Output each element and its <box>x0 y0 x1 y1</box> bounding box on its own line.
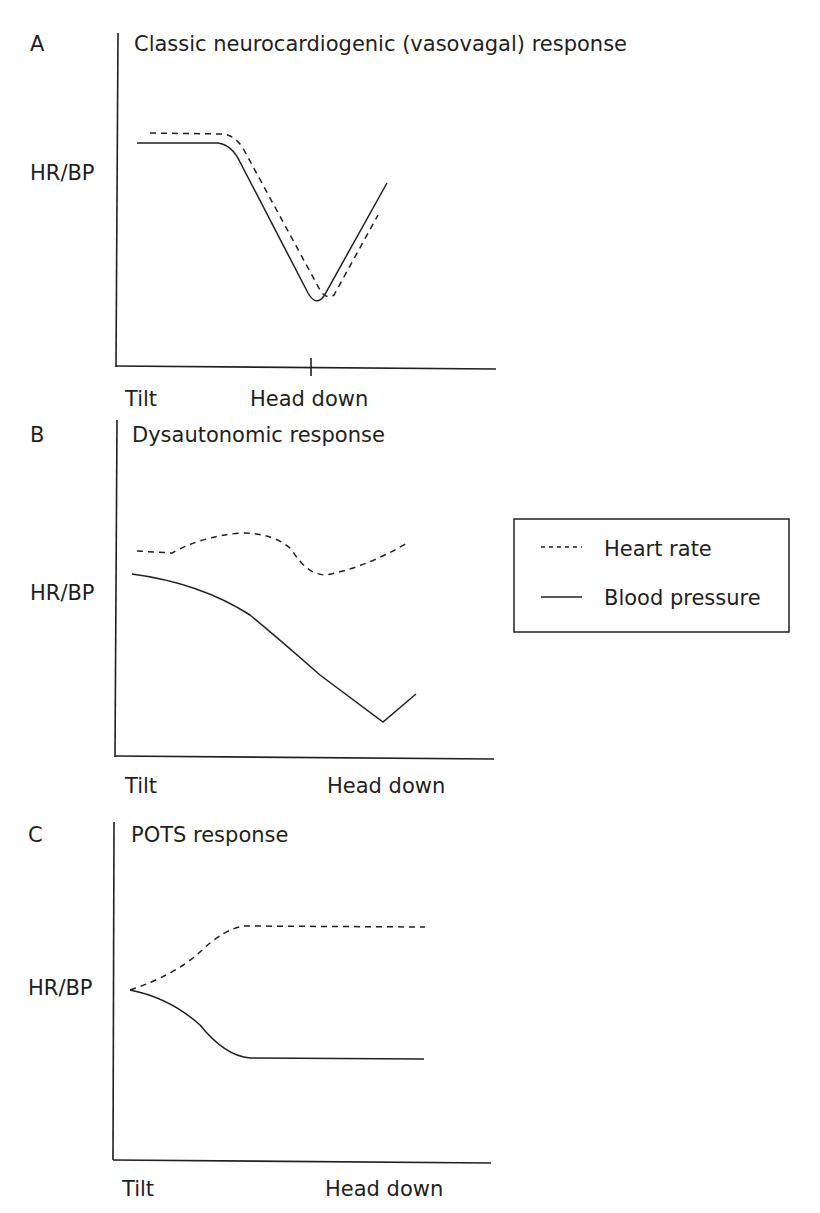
panel-a-y-axis <box>116 33 118 367</box>
panel-a-title: Classic neurocardiogenic (vasovagal) res… <box>134 32 627 56</box>
panel-b-y-axis <box>115 420 117 757</box>
figure: A Classic neurocardiogenic (vasovagal) r… <box>0 0 820 1213</box>
panel-b-letter: B <box>30 423 44 447</box>
panel-a-x-start-label: Tilt <box>124 387 157 411</box>
panel-a-x-axis <box>116 366 496 369</box>
panel-a: A Classic neurocardiogenic (vasovagal) r… <box>30 32 627 411</box>
legend: Heart rate Blood pressure <box>514 519 789 632</box>
panel-b: B Dysautonomic response HR/BP Tilt Head … <box>30 420 494 798</box>
panel-c-blood-pressure-line <box>130 990 424 1059</box>
panel-c-title: POTS response <box>131 823 288 847</box>
panel-b-heart-rate-line <box>137 533 407 575</box>
legend-blood-pressure-label: Blood pressure <box>604 586 761 610</box>
panel-c: C POTS response HR/BP Tilt Head down <box>28 822 491 1201</box>
legend-box <box>514 519 789 632</box>
panel-c-x-end-label: Head down <box>325 1177 443 1201</box>
panel-c-heart-rate-line <box>130 926 425 990</box>
panel-a-blood-pressure-line <box>137 143 387 301</box>
panel-c-x-start-label: Tilt <box>121 1177 154 1201</box>
panel-b-x-start-label: Tilt <box>124 774 157 798</box>
panel-c-letter: C <box>28 823 43 847</box>
panel-b-y-label: HR/BP <box>30 581 95 605</box>
panel-b-blood-pressure-line <box>132 574 416 722</box>
panel-b-title: Dysautonomic response <box>132 423 385 447</box>
panel-a-heart-rate-line <box>150 133 378 297</box>
panel-c-x-axis <box>113 1160 491 1163</box>
panel-a-y-label: HR/BP <box>30 161 95 185</box>
panel-c-y-label: HR/BP <box>28 976 93 1000</box>
panel-c-y-axis <box>113 822 114 1160</box>
panel-b-x-end-label: Head down <box>327 774 445 798</box>
panel-a-x-end-label: Head down <box>250 387 368 411</box>
legend-heart-rate-label: Heart rate <box>604 537 712 561</box>
panel-a-letter: A <box>30 32 45 56</box>
panel-b-x-axis <box>115 756 494 759</box>
